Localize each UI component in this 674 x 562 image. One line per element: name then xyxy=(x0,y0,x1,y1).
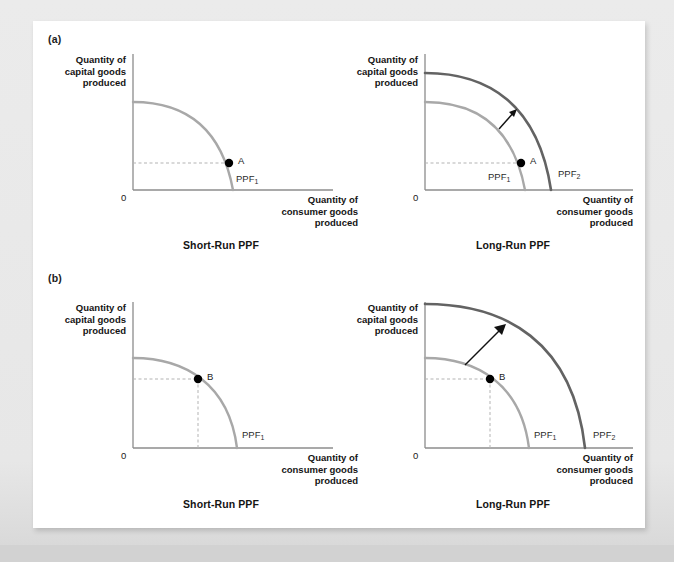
x-axis-label-line1: Quantity of xyxy=(583,452,633,463)
x-axis-label-line3: produced xyxy=(590,475,633,486)
ppf1-label-b-right: PPF1 xyxy=(534,429,556,440)
figure-card: (a) Quantity of capital goods produced A… xyxy=(33,21,645,528)
ppf2-label-text: PPF xyxy=(593,429,611,440)
outward-shift-arrow-b-right xyxy=(465,324,506,365)
ppf1-label-sub: 1 xyxy=(552,434,556,441)
ppf1-label-text: PPF xyxy=(534,429,552,440)
ppf1-curve-b-right xyxy=(425,358,529,448)
caption-b-right: Long-Run PPF xyxy=(443,498,583,510)
bottom-shadow-strip xyxy=(0,545,674,562)
x-axis-label-b-right: Quantity of consumer goods produced xyxy=(523,452,633,487)
x-axis-label-line2: consumer goods xyxy=(556,464,633,475)
origin-label-b-right: 0 xyxy=(413,450,418,461)
point-marker-b-right[interactable] xyxy=(486,375,494,383)
ppf2-label-sub: 2 xyxy=(611,434,615,441)
point-label-b-right: B xyxy=(499,371,505,382)
ppf2-label-b-right: PPF2 xyxy=(593,429,615,440)
